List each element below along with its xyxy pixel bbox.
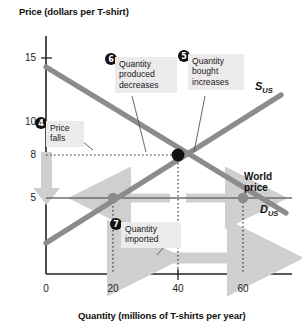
world-price-label: World price	[244, 171, 272, 193]
x-axis-title: Quantity (millions of T-shirts per year)	[78, 310, 246, 321]
supply-curve	[46, 95, 281, 243]
x-tick-40: 40	[168, 283, 188, 294]
demand-curve-label: DUS	[260, 203, 278, 218]
supply-curve-label: SUS	[255, 80, 273, 95]
x-tick-20: 20	[103, 283, 123, 294]
y-tick-15: 15	[12, 52, 36, 63]
x-tick-60: 60	[233, 283, 253, 294]
y-tick-5: 5	[12, 192, 36, 203]
callout-quantity-produced-decreases: Quantity produced decreases	[115, 57, 177, 93]
price-falls-arrow	[33, 152, 60, 205]
equilibrium-dot	[172, 149, 185, 162]
secondary-dot-q20	[108, 193, 118, 203]
y-tick-10: 10	[12, 116, 36, 127]
chart-canvas	[0, 0, 302, 329]
secondary-dot-q60	[238, 193, 248, 203]
demand-label-main: D	[260, 203, 268, 215]
demand-label-sub: US	[268, 209, 278, 218]
callout-price-falls: Price falls	[46, 121, 84, 147]
callout-quantity-imported: Quantity imported	[121, 222, 181, 248]
callout-quantity-bought-increases: Quantity bought increases	[188, 54, 244, 90]
supply-demand-chart: Price (dollars per T-shirt) Quantity (mi…	[0, 0, 302, 329]
supply-label-sub: US	[262, 86, 272, 95]
x-tick-0: 0	[36, 283, 56, 294]
y-tick-8: 8	[12, 149, 36, 160]
y-axis-title: Price (dollars per T-shirt)	[19, 6, 129, 17]
